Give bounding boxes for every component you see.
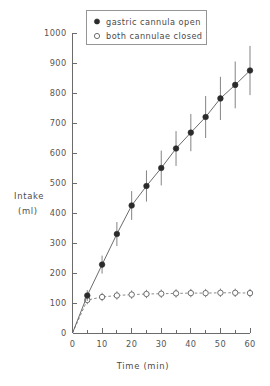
series-path <box>73 293 251 333</box>
data-point <box>159 291 164 296</box>
data-point <box>218 290 223 295</box>
data-point <box>129 203 135 209</box>
y-tick-label: 500 <box>50 178 67 188</box>
data-point <box>233 290 238 295</box>
x-axis-tick-labels: 0102030405060 <box>70 339 256 349</box>
y-tick-label: 800 <box>50 88 67 98</box>
data-point <box>188 130 194 136</box>
data-point <box>114 293 119 298</box>
y-tick-label: 0 <box>61 328 67 338</box>
data-point <box>158 165 164 171</box>
y-tick-label: 200 <box>50 268 67 278</box>
y-tick-label: 1000 <box>44 28 66 38</box>
x-tick-label: 0 <box>70 339 76 349</box>
data-point <box>84 293 90 299</box>
data-point <box>144 291 149 296</box>
data-point <box>232 82 238 88</box>
data-point <box>173 291 178 296</box>
data-point <box>144 183 150 189</box>
chart-svg: 01002003004005006007008009001000 0102030… <box>0 0 270 386</box>
y-tick-label: 600 <box>50 148 67 158</box>
y-tick-label: 100 <box>50 298 67 308</box>
legend: gastric cannula open both cannulae close… <box>87 11 207 45</box>
y-tick-label: 300 <box>50 238 67 248</box>
data-point <box>203 114 209 120</box>
y-axis-tick-labels: 01002003004005006007008009001000 <box>44 28 66 338</box>
y-tick-label: 900 <box>50 58 67 68</box>
legend-label-1: both cannulae closed <box>106 31 203 41</box>
series-both-cannulae-closed <box>73 289 253 333</box>
data-point <box>173 146 179 152</box>
x-tick-label: 10 <box>96 339 107 349</box>
series-gastric-cannula-open <box>73 46 253 333</box>
x-axis-title: Time (min) <box>116 361 170 371</box>
data-point <box>114 231 120 237</box>
legend-marker-filled-circle <box>94 19 99 24</box>
y-axis-title-line2: (ml) <box>18 206 38 216</box>
legend-marker-open-circle <box>94 33 99 38</box>
data-point <box>99 294 104 299</box>
y-tick-label: 400 <box>50 208 67 218</box>
y-axis-title: Intake (ml) <box>14 191 44 216</box>
data-point <box>218 96 224 102</box>
x-tick-label: 30 <box>156 339 167 349</box>
x-axis-ticks <box>73 328 251 333</box>
x-tick-label: 60 <box>244 339 255 349</box>
plot-area: 01002003004005006007008009001000 0102030… <box>44 28 256 349</box>
legend-label-0: gastric cannula open <box>106 17 201 27</box>
data-point <box>247 290 252 295</box>
chart-figure: 01002003004005006007008009001000 0102030… <box>0 0 270 386</box>
data-point <box>247 68 253 74</box>
x-tick-label: 50 <box>215 339 226 349</box>
data-point <box>188 290 193 295</box>
x-tick-label: 40 <box>185 339 196 349</box>
data-point <box>129 292 134 297</box>
y-axis-ticks <box>73 33 77 333</box>
data-point <box>203 290 208 295</box>
y-tick-label: 700 <box>50 118 67 128</box>
data-point <box>99 262 105 268</box>
y-axis-title-line1: Intake <box>14 191 44 201</box>
x-tick-label: 20 <box>126 339 137 349</box>
